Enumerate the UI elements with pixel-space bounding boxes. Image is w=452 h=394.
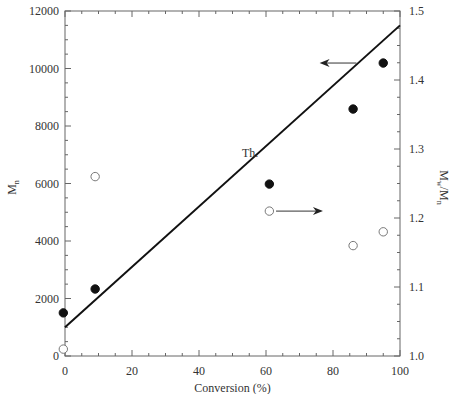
y-axis-title: Mn — [5, 180, 21, 195]
mn-data-point — [91, 285, 99, 293]
x-tick-label: 100 — [391, 364, 409, 378]
y-right-tick-label: 1.2 — [409, 211, 424, 225]
x-tick-label: 40 — [193, 364, 205, 378]
y-right-tick-label: 1.3 — [409, 142, 424, 156]
y-tick-label: 8000 — [35, 119, 59, 133]
x-tick-label: 60 — [260, 364, 272, 378]
mwmn-data-point — [265, 207, 273, 215]
mn-data-point — [379, 59, 387, 67]
x-tick-label: 80 — [327, 364, 339, 378]
x-axis-title: Conversion (%) — [194, 381, 270, 394]
theory-line — [65, 25, 400, 327]
mn-data-point — [59, 309, 67, 317]
mwmn-data-point — [379, 228, 387, 236]
mn-data-point — [349, 105, 357, 113]
y-right-axis-title: Mw/Mn — [435, 170, 451, 204]
y-right-tick-label: 1.0 — [409, 349, 424, 363]
y-tick-label: 12000 — [29, 4, 59, 18]
y-tick-label: 4000 — [35, 234, 59, 248]
y-right-tick-label: 1.1 — [409, 280, 424, 294]
annotations-layer: Th. — [242, 59, 357, 215]
mwmn-data-point — [349, 241, 357, 249]
mwmn-data-point — [91, 172, 99, 180]
y-tick-label: 2000 — [35, 292, 59, 306]
y-tick-label: 0 — [53, 349, 59, 363]
mn-data-point — [265, 180, 273, 188]
x-tick-label: 0 — [62, 364, 68, 378]
theory-label: Th. — [242, 146, 258, 160]
y-right-tick-label: 1.4 — [409, 73, 424, 87]
y-tick-label: 10000 — [29, 62, 59, 76]
chart-canvas: 0204060801000200040006000800010000120001… — [0, 0, 452, 394]
series-layer — [59, 25, 400, 353]
mwmn-data-point — [59, 345, 67, 353]
y-right-tick-label: 1.5 — [409, 4, 424, 18]
x-tick-label: 20 — [126, 364, 138, 378]
y-tick-label: 6000 — [35, 177, 59, 191]
